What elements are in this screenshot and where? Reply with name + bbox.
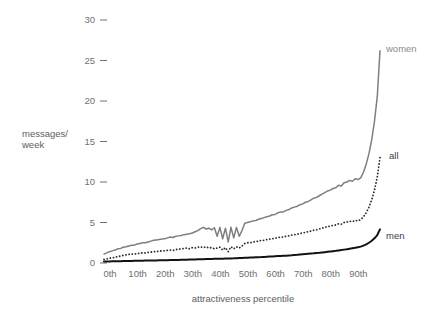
y-axis-tick-label: 20 (84, 95, 95, 106)
x-axis-tick-label: 60th (266, 268, 285, 279)
x-axis-tick-label-group: 0th10th20th30th40th50th60th70th80th90th (103, 268, 367, 279)
x-axis-tick-label: 0th (103, 268, 116, 279)
y-axis-tick-group (100, 20, 107, 263)
y-axis-tick-label: 10 (84, 176, 95, 187)
y-axis-tick-label-group: 051015202530 (84, 14, 95, 268)
x-axis-tick-label: 90th (349, 268, 368, 279)
x-axis-tick-label: 10th (128, 268, 147, 279)
x-axis-tick-label: 50th (239, 268, 258, 279)
series-label-women: women (385, 43, 417, 54)
y-axis-title-line-2: week (21, 139, 44, 150)
x-axis-title: attractiveness percentile (192, 293, 294, 304)
x-axis-tick-label: 40th (211, 268, 230, 279)
y-axis-tick-label: 0 (90, 257, 95, 268)
y-axis-tick-label: 15 (84, 136, 95, 147)
x-axis-tick-label: 70th (294, 268, 313, 279)
x-axis-tick-label: 80th (322, 268, 341, 279)
series-line-all (104, 158, 380, 260)
series-label-men: men (386, 230, 404, 241)
series-path-group (104, 51, 380, 262)
y-axis-tick-label: 5 (90, 217, 95, 228)
x-axis-tick-label: 30th (184, 268, 203, 279)
y-axis-tick-label: 25 (84, 55, 95, 66)
chart-container: 051015202530 0th10th20th30th40th50th60th… (0, 0, 438, 323)
x-axis-tick-label: 20th (156, 268, 175, 279)
messages-per-week-line-chart: 051015202530 0th10th20th30th40th50th60th… (0, 0, 438, 323)
y-axis-title-line-1: messages/ (22, 128, 68, 139)
series-label-all: all (389, 150, 399, 161)
y-axis-tick-label: 30 (84, 14, 95, 25)
